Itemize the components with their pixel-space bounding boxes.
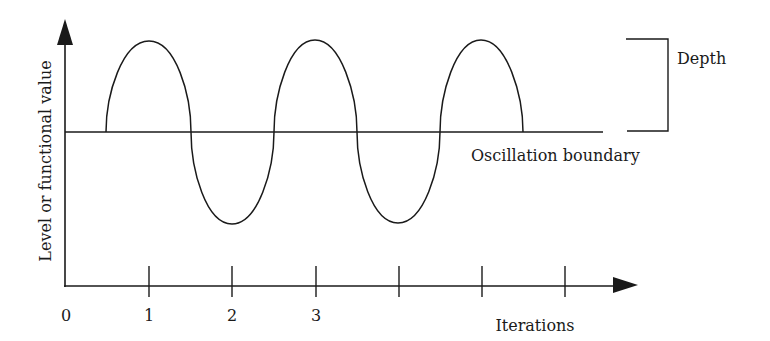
tick-label-3: 3 <box>311 306 321 325</box>
x-axis-arrowhead-icon <box>613 277 638 293</box>
tick-label-2: 2 <box>227 306 237 325</box>
tick-label-1: 1 <box>144 306 154 325</box>
x-axis <box>64 266 638 297</box>
depth-label: Depth <box>677 49 726 68</box>
depth-bracket <box>626 39 668 131</box>
y-axis-arrowhead-icon <box>57 19 73 45</box>
oscillation-diagram: 0 1 2 3 Iterations Level or functional v… <box>0 0 770 341</box>
y-axis-title: Level or functional value <box>36 60 55 261</box>
y-axis <box>57 19 73 287</box>
x-axis-title: Iterations <box>495 316 574 335</box>
x-axis-ticks <box>149 266 565 297</box>
oscillation-boundary-label: Oscillation boundary <box>471 146 640 165</box>
tick-label-origin: 0 <box>61 306 71 325</box>
